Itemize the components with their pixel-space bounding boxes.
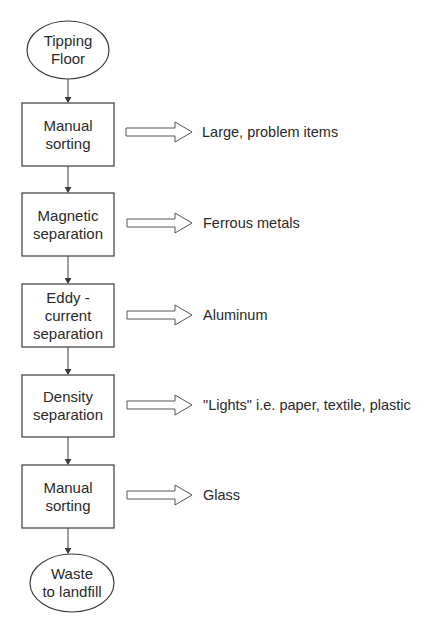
step-3-label: Eddy - current separation: [22, 284, 114, 347]
output-arrow-3-icon: [127, 305, 192, 325]
output-label-3: Aluminum: [203, 306, 267, 324]
output-label-4: "Lights" i.e. paper, textile, plastic: [203, 396, 411, 414]
output-arrow-4-icon: [127, 395, 192, 415]
step-2-label: Magnetic separation: [22, 193, 114, 256]
output-label-1: Large, problem items: [202, 123, 338, 141]
step-5-label: Manual sorting: [22, 465, 114, 528]
step-1-label: Manual sorting: [22, 103, 114, 166]
output-arrow-2-icon: [127, 213, 192, 233]
output-label-2: Ferrous metals: [203, 214, 300, 232]
output-arrow-1-icon: [126, 122, 192, 142]
start-node-label: Tipping Floor: [27, 21, 109, 79]
output-arrow-5-icon: [127, 485, 192, 505]
step-4-label: Density separation: [22, 375, 114, 437]
output-label-5: Glass: [203, 486, 240, 504]
end-node-label: Waste to landfill: [30, 554, 114, 612]
